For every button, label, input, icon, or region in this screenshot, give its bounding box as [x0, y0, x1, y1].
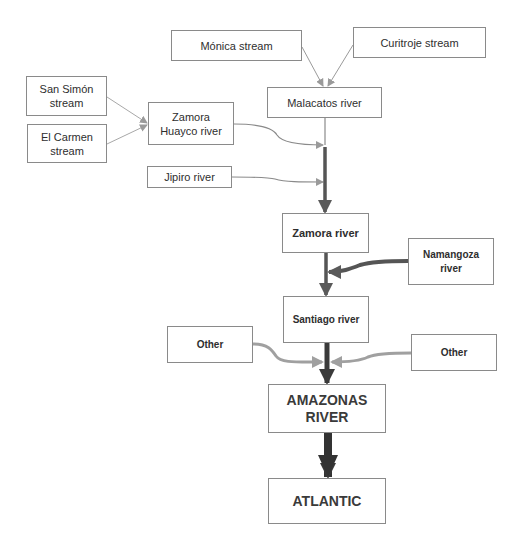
arrow-zamora-huayco-to-main: [234, 124, 323, 145]
node-label: ATLANTIC: [293, 493, 362, 510]
node-label: Jipiro river: [164, 170, 215, 184]
node-other-right: Other: [411, 334, 497, 371]
node-label: AMAZONAS RIVER: [287, 392, 368, 426]
node-label: Santiago river: [293, 313, 360, 327]
arrow-curitroje-to-malacatos: [328, 45, 353, 86]
node-label: Namangoza river: [423, 248, 479, 276]
river-flow-diagram: Mónica stream Curitroje stream Malacatos…: [0, 0, 522, 550]
node-label: Other: [197, 338, 224, 352]
node-san-simon-stream: San Simón stream: [26, 76, 107, 116]
arrow-san-simon-to-zamora-huayco: [107, 97, 147, 123]
node-malacatos-river: Malacatos river: [267, 87, 382, 118]
arrow-el-carmen-to-zamora-huayco: [107, 125, 147, 144]
arrow-head-atlantic: [318, 455, 338, 477]
node-santiago-river: Santiago river: [283, 296, 369, 343]
node-amazonas-river: AMAZONAS RIVER: [268, 384, 386, 433]
arrow-namangoza-to-santiago: [329, 261, 408, 272]
node-label: San Simón stream: [40, 82, 94, 110]
node-namangoza-river: Namangoza river: [408, 238, 494, 285]
arrow-other-right-to-amazonas: [332, 353, 411, 362]
node-el-carmen-stream: El Carmen stream: [27, 124, 107, 163]
node-label: Mónica stream: [200, 39, 272, 53]
node-label: Malacatos river: [287, 96, 362, 110]
node-monica-stream: Mónica stream: [171, 30, 302, 61]
node-curitroje-stream: Curitroje stream: [353, 27, 486, 58]
node-label: El Carmen stream: [41, 130, 93, 158]
node-label: Zamora river: [292, 226, 359, 240]
node-label: Other: [441, 346, 468, 360]
node-other-left: Other: [167, 326, 253, 363]
arrow-jipiro-to-main: [232, 177, 323, 182]
node-label: Zamora Huayco river: [160, 110, 222, 138]
node-zamora-river: Zamora river: [282, 213, 369, 253]
node-zamora-huayco-river: Zamora Huayco river: [148, 102, 234, 145]
node-jipiro-river: Jipiro river: [147, 166, 232, 188]
node-label: Curitroje stream: [380, 36, 458, 50]
arrow-monica-to-malacatos: [302, 47, 323, 86]
arrow-other-left-to-amazonas: [253, 344, 322, 362]
node-atlantic: ATLANTIC: [268, 478, 386, 524]
